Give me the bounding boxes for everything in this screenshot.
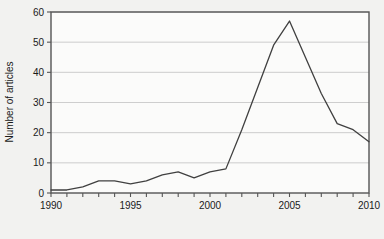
y-tick-label-10: 10 — [33, 157, 45, 168]
chart-figure: 0102030405060 19901995200020052010 Numbe… — [0, 0, 384, 239]
x-tick-label-1995: 1995 — [119, 200, 142, 211]
y-tick-label-60: 60 — [33, 7, 45, 18]
x-tick-label-2000: 2000 — [199, 200, 222, 211]
y-tick-label-50: 50 — [33, 37, 45, 48]
x-tick-label-2005: 2005 — [278, 200, 301, 211]
x-tick-label-2010: 2010 — [358, 200, 381, 211]
y-tick-label-40: 40 — [33, 67, 45, 78]
y-tick-label-20: 20 — [33, 127, 45, 138]
y-tick-label-30: 30 — [33, 97, 45, 108]
y-tick-label-0: 0 — [38, 188, 44, 199]
y-axis-title: Number of articles — [4, 61, 15, 142]
x-tick-label-1990: 1990 — [40, 200, 63, 211]
line-chart-svg: 0102030405060 19901995200020052010 Numbe… — [0, 0, 384, 239]
